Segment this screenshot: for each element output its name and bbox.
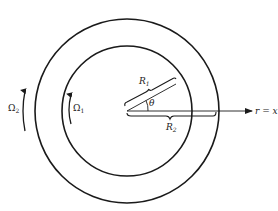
r1-label: R1	[138, 76, 150, 87]
axis-label: r = x1	[255, 104, 278, 116]
omega1-rotation-arrow	[69, 95, 71, 124]
r2-brace	[127, 112, 216, 119]
theta-label: θ	[149, 98, 155, 108]
omega1-label: Ω1	[73, 103, 84, 114]
omega2-rotation-arrow	[23, 91, 25, 131]
omega2-label: Ω2	[8, 103, 19, 114]
theta-arc	[146, 101, 148, 112]
r2-label: R2	[165, 122, 177, 133]
cylinder-diagram: Ω2 Ω1 R1 R2 θ r = x1	[0, 0, 278, 211]
